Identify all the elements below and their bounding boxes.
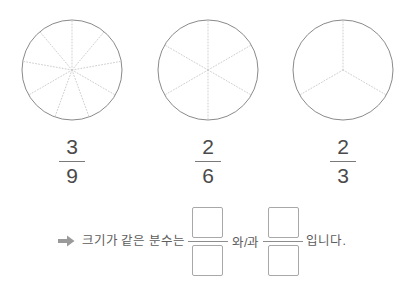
answer-fraction-bar-1 <box>188 241 228 242</box>
answer-fraction-bar-2 <box>263 241 303 242</box>
fraction-label-2: 2 6 <box>156 136 260 186</box>
fraction-bar <box>330 161 356 162</box>
answer-numerator-box-1[interactable] <box>192 207 223 238</box>
fraction-numerator: 3 <box>20 136 124 157</box>
fraction-denominator: 9 <box>20 165 124 186</box>
circle-nine-svg <box>20 18 124 122</box>
fraction-bar <box>59 161 85 162</box>
arrow-right-icon <box>58 234 75 248</box>
circle-models-row <box>0 18 404 130</box>
answer-denominator-box-1[interactable] <box>192 245 223 276</box>
fraction-denominator: 3 <box>291 165 395 186</box>
circle-three-svg <box>291 18 395 122</box>
fraction-numerator: 2 <box>156 136 260 157</box>
answer-fraction-1[interactable] <box>188 207 228 276</box>
answer-denominator-box-2[interactable] <box>268 245 299 276</box>
fraction-circle-six <box>156 18 260 122</box>
fraction-circle-three <box>291 18 395 122</box>
sentence-joiner-text: 와/과 <box>232 232 259 251</box>
fraction-circle-nine <box>20 18 124 122</box>
answer-fraction-2[interactable] <box>263 207 303 276</box>
sentence-lead-text: 크기가 같은 분수는 <box>82 234 185 248</box>
answer-numerator-box-2[interactable] <box>268 207 299 238</box>
fraction-label-3: 2 3 <box>291 136 395 186</box>
fraction-denominator: 6 <box>156 165 260 186</box>
answer-sentence: 크기가 같은 분수는 와/과 입니다. <box>0 198 404 284</box>
circle-six-svg <box>156 18 260 122</box>
sentence-trailing-text: 입니다. <box>306 234 345 248</box>
fraction-bar <box>195 161 221 162</box>
fraction-worksheet: 3 9 2 6 2 3 크기가 같은 분수는 와/과 <box>0 0 404 290</box>
fraction-label-1: 3 9 <box>20 136 124 186</box>
fraction-numerator: 2 <box>291 136 395 157</box>
